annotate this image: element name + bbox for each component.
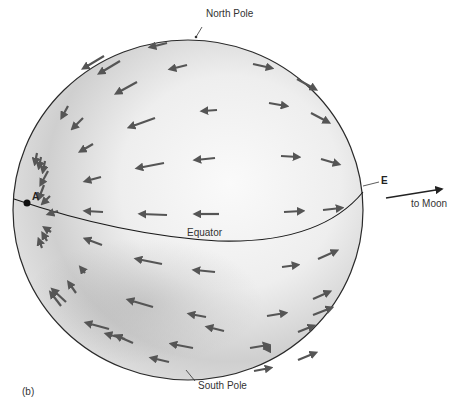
earth-sphere <box>0 40 363 380</box>
north-pole-leader <box>196 27 202 37</box>
force-arrow <box>141 214 167 215</box>
to-moon-arrow <box>386 189 442 198</box>
point-e-label: E <box>381 175 388 186</box>
point-a-label: A <box>32 191 39 202</box>
point-a-marker <box>24 200 31 207</box>
panel-label: (b) <box>22 386 34 397</box>
force-arrow <box>86 211 103 212</box>
equator-label: Equator <box>187 227 222 238</box>
force-arrow <box>284 211 302 212</box>
point-e-leader <box>363 182 379 186</box>
force-arrow <box>203 110 217 111</box>
force-arrow <box>298 353 315 360</box>
force-arrow <box>281 156 298 157</box>
force-arrow <box>254 368 270 371</box>
earth-tide-diagram <box>0 0 454 400</box>
to-moon-label: to Moon <box>411 198 447 209</box>
south-pole-label: South Pole <box>198 380 247 391</box>
north-pole-label: North Pole <box>206 8 253 19</box>
